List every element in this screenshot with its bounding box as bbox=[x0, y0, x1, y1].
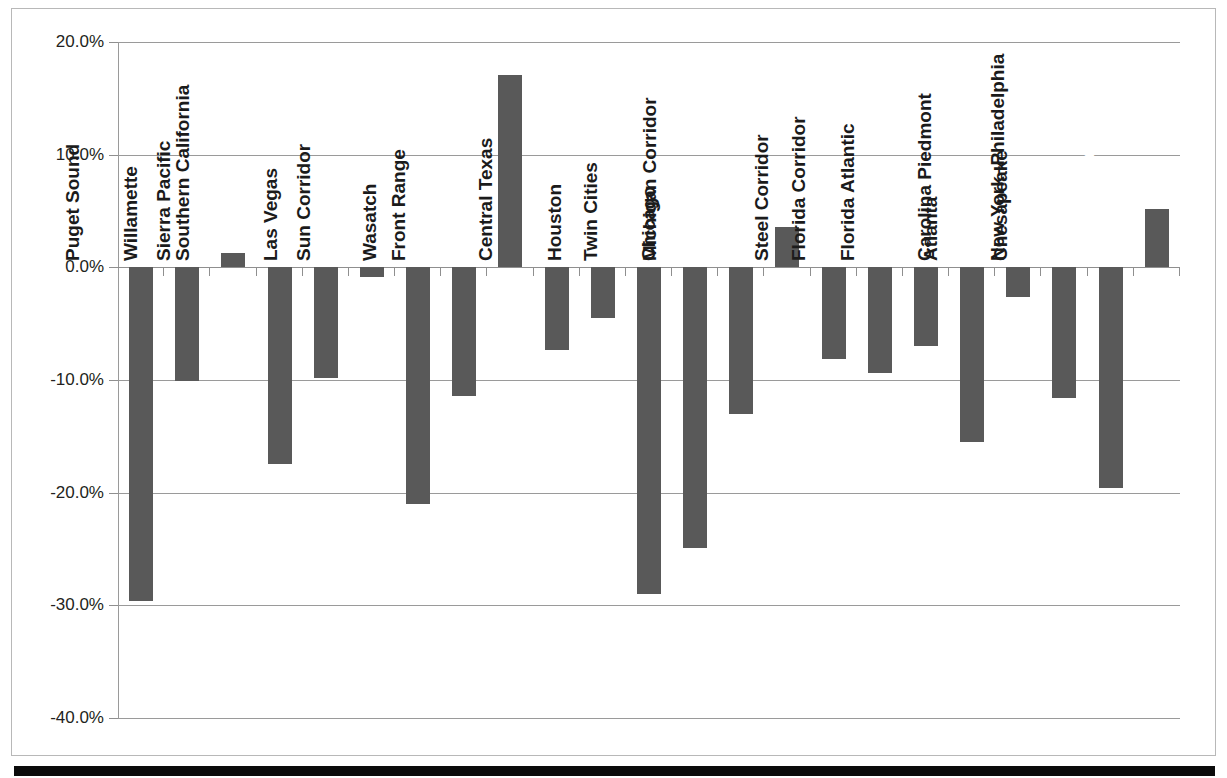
bar[interactable] bbox=[960, 267, 984, 442]
bar-group: Sun Corridor bbox=[349, 42, 395, 718]
bar-category-label: Sierra Pacific bbox=[154, 141, 173, 261]
y-axis-tick-labels: 20.0%10.0%0.0%-10.0%-20.0%-30.0%-40.0% bbox=[0, 42, 104, 718]
bar-category-label: Central Texas bbox=[476, 138, 495, 261]
bar[interactable] bbox=[1099, 267, 1123, 488]
bar[interactable] bbox=[452, 267, 476, 395]
y-tick-mark bbox=[109, 42, 118, 43]
bar[interactable] bbox=[175, 267, 199, 381]
bar-category-label: Steel Corridor bbox=[751, 135, 770, 262]
bar[interactable] bbox=[1145, 209, 1169, 268]
bar[interactable] bbox=[729, 267, 753, 413]
y-tick-label: -30.0% bbox=[50, 596, 104, 613]
y-tick-label: -10.0% bbox=[50, 371, 104, 388]
bar-category-label: Willamette bbox=[121, 166, 140, 261]
bar-category-label: Florida Corridor bbox=[789, 117, 808, 262]
bar-category-label: Southern California bbox=[172, 85, 191, 261]
bar[interactable] bbox=[637, 267, 661, 594]
y-tick-label: -20.0% bbox=[50, 484, 104, 501]
bar[interactable] bbox=[498, 75, 522, 268]
bar-group: Central Texas bbox=[534, 42, 580, 718]
y-tick-mark bbox=[109, 493, 118, 494]
bar-category-label: Puget Sound bbox=[64, 144, 83, 261]
bar[interactable] bbox=[360, 267, 384, 277]
bar[interactable] bbox=[129, 267, 153, 600]
bar-category-label: New York–Philadelphia bbox=[988, 54, 1007, 261]
bar-group: Chicago bbox=[672, 42, 718, 718]
bar[interactable] bbox=[683, 267, 707, 548]
bar-group: Sierra Pacific bbox=[210, 42, 256, 718]
bar[interactable] bbox=[1052, 267, 1076, 398]
bar-category-label: Twin Cities bbox=[581, 162, 600, 261]
bar[interactable] bbox=[221, 253, 245, 268]
bar-group: New England bbox=[1134, 42, 1180, 718]
bar[interactable] bbox=[314, 267, 338, 377]
footer-rule bbox=[14, 766, 1215, 776]
bar-category-label: Sun Corridor bbox=[294, 144, 313, 261]
y-tick-mark bbox=[109, 267, 118, 268]
bar[interactable] bbox=[914, 267, 938, 346]
bar[interactable] bbox=[406, 267, 430, 504]
y-tick-label: 20.0% bbox=[56, 33, 104, 50]
bar-series: Puget SoundWillametteSierra PacificSouth… bbox=[118, 42, 1180, 718]
gridline--40.0 bbox=[118, 718, 1180, 719]
bar-category-label: Houston bbox=[545, 184, 564, 261]
bar[interactable] bbox=[868, 267, 892, 373]
bar-category-label: Michigan Corridor bbox=[641, 98, 660, 262]
bar[interactable] bbox=[268, 267, 292, 464]
y-tick-mark bbox=[109, 380, 118, 381]
bar-category-label: Front Range bbox=[389, 149, 408, 261]
y-tick-mark bbox=[109, 605, 118, 606]
bar-category-label: Florida Atlantic bbox=[838, 124, 857, 262]
bar-category-label: Wasatch bbox=[360, 184, 379, 261]
bar-category-label: Carolina Piedmont bbox=[915, 93, 934, 261]
bar-group: Florida Corridor bbox=[857, 42, 903, 718]
y-tick-label: -40.0% bbox=[50, 709, 104, 726]
y-tick-mark bbox=[109, 718, 118, 719]
bar-category-label: Ohio Valley bbox=[717, 159, 736, 261]
bar-category-label: Dallas–Fort Worth bbox=[410, 98, 429, 261]
bar-category-label: Las Vegas bbox=[260, 168, 279, 261]
bar-group: Houston bbox=[580, 42, 626, 718]
x-tick-mark bbox=[1179, 267, 1180, 276]
bar[interactable] bbox=[591, 267, 615, 318]
y-tick-mark bbox=[109, 155, 118, 156]
figure-canvas: 20.0%10.0%0.0%-10.0%-20.0%-30.0%-40.0% P… bbox=[0, 0, 1227, 778]
bar-category-label: New England bbox=[1078, 142, 1097, 261]
bar[interactable] bbox=[1006, 267, 1030, 296]
bar[interactable] bbox=[545, 267, 569, 349]
bar[interactable] bbox=[822, 267, 846, 358]
